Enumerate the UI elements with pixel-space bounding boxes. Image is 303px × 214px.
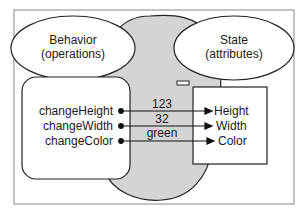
attribute-label: Height [214,104,249,118]
state-title: State [220,33,248,47]
operation-label: changeHeight [39,104,114,118]
attribute-label: Width [216,119,247,133]
attribute-label: Color [218,134,247,148]
operation-label: changeColor [45,134,113,148]
behavior-subtitle: (operations) [41,47,105,61]
value-label: 32 [155,112,169,126]
slot-mark [177,81,189,85]
object-diagram: Behavior (operations) State (attributes)… [0,0,303,214]
behavior-title: Behavior [49,33,96,47]
state-subtitle: (attributes) [205,47,262,61]
operation-label: changeWidth [43,119,113,133]
value-label: 123 [152,97,172,111]
value-label: green [147,126,178,140]
